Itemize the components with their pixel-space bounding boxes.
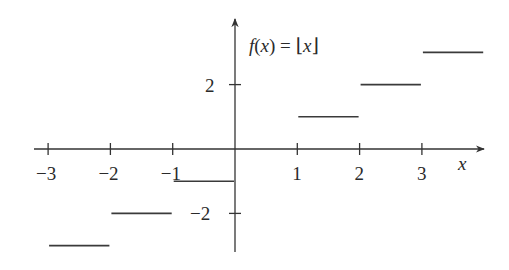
x-tick-label: −2 (98, 163, 118, 184)
floor-function-chart: −3−2−1123 2−2 f(x) = ⌊x⌋ x (0, 0, 509, 270)
x-tick-label: 3 (417, 163, 427, 184)
y-tick-label: −2 (190, 203, 210, 224)
x-tick-label: 1 (292, 163, 302, 184)
chart-title: f(x) = ⌊x⌋ (249, 35, 319, 57)
y-tick-label: 2 (205, 75, 215, 96)
x-axis-label: x (457, 153, 467, 174)
x-tick-label: 2 (355, 163, 365, 184)
x-tick-label: −3 (36, 163, 56, 184)
